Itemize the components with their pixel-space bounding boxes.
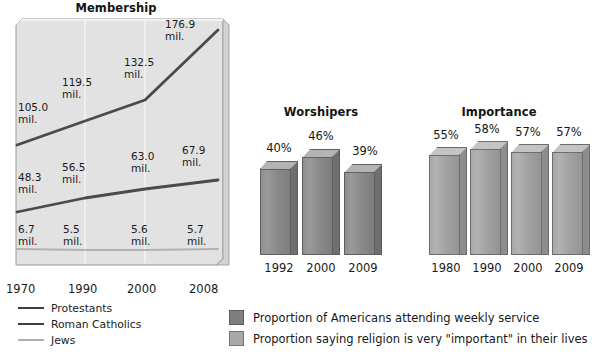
legend-item-protestants: Protestants — [18, 300, 141, 316]
bar-importance-2009 — [552, 125, 590, 255]
datalabel-catholics-1970: 48.3mil. — [18, 172, 41, 195]
barcat-importance-1990: 1990 — [464, 261, 510, 275]
legend-label-protestants: Protestants — [51, 302, 112, 315]
bar-side-face — [374, 164, 382, 255]
legend-label-jews: Jews — [51, 334, 75, 347]
bar-side-face — [500, 141, 508, 255]
datalabel-catholics-2000: 63.0mil. — [131, 151, 154, 174]
importance-chart-title: Importance — [424, 105, 574, 119]
barcat-importance-2000: 2000 — [505, 261, 551, 275]
xtick-2000: 2000 — [127, 282, 156, 296]
datalabel-jews-2000: 5.6mil. — [131, 224, 150, 247]
barcat-importance-1980: 1980 — [423, 261, 469, 275]
legend-line-swatch-roman-catholics — [18, 323, 44, 325]
barvalue-worshipers-1992: 40% — [258, 141, 300, 155]
bar-worshipers-2000 — [302, 125, 340, 255]
membership-legend: Protestants Roman Catholics Jews — [18, 300, 141, 348]
xtick-2008: 2008 — [189, 282, 218, 296]
barvalue-importance-1990: 58% — [466, 122, 508, 136]
barcat-worshipers-1992: 1992 — [256, 261, 302, 275]
barvalue-importance-1980: 55% — [425, 128, 467, 142]
legend-label-importance: Proportion saying religion is very "impo… — [253, 332, 588, 346]
barvalue-worshipers-2009: 39% — [344, 144, 386, 158]
datalabel-protestants-2000: 132.5mil. — [124, 57, 154, 80]
legend-item-importance: Proportion saying religion is very "impo… — [229, 328, 588, 349]
datalabel-jews-2008: 5.7mil. — [187, 224, 206, 247]
datalabel-protestants-1990: 119.5mil. — [62, 77, 92, 100]
datalabel-protestants-1970: 105.0mil. — [18, 102, 48, 125]
legend-line-swatch-protestants — [18, 307, 44, 309]
bar-importance-2000 — [511, 125, 549, 255]
bar-front-face — [511, 152, 542, 255]
barcat-importance-2009: 2009 — [546, 261, 592, 275]
bar-importance-1990 — [470, 125, 508, 255]
datalabel-catholics-1990: 56.5mil. — [62, 162, 85, 185]
bar-front-face — [429, 155, 460, 255]
bar-front-face — [344, 172, 375, 255]
bar-front-face — [470, 149, 501, 255]
datalabel-jews-1990: 5.5mil. — [63, 224, 82, 247]
bar-side-face — [290, 161, 298, 255]
datalabel-protestants-2008: 176.9mil. — [165, 19, 195, 42]
importance-bar-chart: 55% 1980 58% 1990 57% 2000 57% 2009 — [427, 125, 587, 275]
legend-item-jews: Jews — [18, 332, 141, 348]
bar-importance-1980 — [429, 125, 467, 255]
legend-item-weekly-service: Proportion of Americans attending weekly… — [229, 307, 588, 328]
worshipers-bar-chart: 40% 1992 46% 2000 39% 2009 — [258, 125, 388, 275]
bar-charts-legend: Proportion of Americans attending weekly… — [229, 307, 588, 349]
legend-line-swatch-jews — [18, 339, 44, 341]
bar-side-face — [582, 144, 590, 255]
bar-front-face — [260, 169, 291, 255]
legend-swatch-weekly-service — [229, 310, 244, 325]
barcat-worshipers-2000: 2000 — [298, 261, 344, 275]
datalabel-jews-1970: 6.7mil. — [18, 224, 37, 247]
barvalue-importance-2000: 57% — [507, 125, 549, 139]
worshipers-chart-title: Worshipers — [256, 105, 386, 119]
legend-label-weekly-service: Proportion of Americans attending weekly… — [253, 311, 539, 325]
legend-label-roman-catholics: Roman Catholics — [51, 318, 141, 331]
membership-chart-title: Membership — [0, 1, 232, 15]
series-line-jews — [17, 249, 218, 250]
bar-side-face — [459, 147, 467, 255]
legend-item-roman-catholics: Roman Catholics — [18, 316, 141, 332]
datalabel-catholics-2008: 67.9mil. — [182, 145, 205, 168]
bar-side-face — [332, 149, 340, 255]
bar-side-face — [541, 144, 549, 255]
xtick-1970: 1970 — [6, 282, 35, 296]
barvalue-worshipers-2000: 46% — [300, 129, 342, 143]
barvalue-importance-2009: 57% — [548, 125, 590, 139]
xtick-1990: 1990 — [68, 282, 97, 296]
membership-line-chart: 105.0mil. 119.5mil. 132.5mil. 176.9mil. … — [0, 17, 240, 267]
barcat-worshipers-2009: 2009 — [340, 261, 386, 275]
bar-front-face — [302, 157, 333, 255]
legend-swatch-importance — [229, 331, 244, 346]
bar-front-face — [552, 152, 583, 255]
